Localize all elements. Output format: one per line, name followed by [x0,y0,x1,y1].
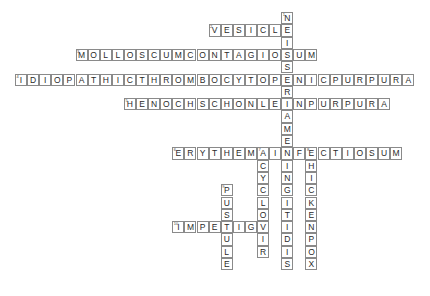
crossword-cell[interactable]: R [366,98,378,110]
crossword-cell[interactable]: Y [233,74,245,86]
crossword-cell[interactable]: M [245,147,257,159]
crossword-cell[interactable]: C [305,184,317,196]
crossword-cell[interactable]: T [281,209,293,221]
crossword-cell[interactable]: A [378,98,390,110]
crossword-cell[interactable]: N [293,98,305,110]
crossword-cell[interactable]: S [281,61,293,73]
crossword-cell[interactable]: P [197,221,209,233]
crossword-cell[interactable]: B [197,74,209,86]
crossword-cell[interactable]: C [209,98,221,110]
crossword-cell[interactable]: D [281,233,293,245]
crossword-cell[interactable]: P [366,74,378,86]
crossword-cell[interactable]: I [257,49,269,61]
crossword-cell[interactable]: M [184,74,196,86]
crossword-cell[interactable]: C [124,74,136,86]
crossword-cell[interactable]: N [281,172,293,184]
crossword-cell[interactable]: 2V [209,24,221,36]
crossword-cell[interactable]: I [245,24,257,36]
crossword-cell[interactable]: U [318,98,330,110]
crossword-cell[interactable]: C [172,98,184,110]
crossword-cell[interactable]: R [330,98,342,110]
crossword-cell[interactable]: Y [257,172,269,184]
crossword-cell[interactable]: O [209,74,221,86]
crossword-cell[interactable]: E [305,209,317,221]
crossword-cell[interactable]: H [148,74,160,86]
crossword-cell[interactable]: C [318,147,330,159]
crossword-cell[interactable]: T [221,49,233,61]
crossword-cell[interactable]: L [112,49,124,61]
crossword-cell[interactable]: E [233,147,245,159]
crossword-cell[interactable]: T [209,147,221,159]
crossword-cell[interactable]: I [281,160,293,172]
crossword-cell[interactable]: Y [197,147,209,159]
crossword-cell[interactable]: A [281,110,293,122]
crossword-cell[interactable]: P [305,233,317,245]
crossword-cell[interactable]: R [390,74,402,86]
crossword-cell[interactable]: O [257,209,269,221]
crossword-cell[interactable]: 7A [257,147,269,159]
crossword-cell[interactable]: L [257,197,269,209]
crossword-cell[interactable]: I [233,221,245,233]
crossword-cell[interactable]: T [136,74,148,86]
crossword-cell[interactable]: C [257,160,269,172]
crossword-cell[interactable]: I [342,147,354,159]
crossword-cell[interactable]: D [27,74,39,86]
crossword-cell[interactable]: H [221,147,233,159]
crossword-cell[interactable]: C [257,184,269,196]
crossword-cell[interactable]: P [269,74,281,86]
crossword-cell[interactable]: H [305,160,317,172]
crossword-cell[interactable]: I [112,74,124,86]
crossword-cell[interactable]: R [281,86,293,98]
crossword-cell[interactable]: L [221,246,233,258]
crossword-cell[interactable]: I [281,197,293,209]
crossword-cell[interactable]: E [136,98,148,110]
crossword-cell[interactable]: U [221,197,233,209]
crossword-cell[interactable]: G [245,49,257,61]
crossword-cell[interactable]: U [160,49,172,61]
crossword-cell[interactable]: C [318,74,330,86]
crossword-cell[interactable]: E [221,24,233,36]
crossword-cell[interactable]: E [281,135,293,147]
crossword-cell[interactable]: C [221,74,233,86]
crossword-cell[interactable]: U [354,98,366,110]
crossword-cell[interactable]: E [221,258,233,270]
crossword-cell[interactable]: R [257,246,269,258]
crossword-cell[interactable]: 4I [15,74,27,86]
crossword-cell[interactable]: I [281,98,293,110]
crossword-cell[interactable]: S [221,209,233,221]
crossword-cell[interactable]: I [281,37,293,49]
crossword-cell[interactable]: L [269,24,281,36]
crossword-cell[interactable]: R [354,74,366,86]
crossword-cell[interactable]: U [221,233,233,245]
crossword-cell[interactable]: S [197,98,209,110]
crossword-cell[interactable]: I [257,233,269,245]
crossword-cell[interactable]: O [305,246,317,258]
crossword-cell[interactable]: C [148,49,160,61]
crossword-cell[interactable]: P [305,98,317,110]
crossword-cell[interactable]: H [221,98,233,110]
crossword-cell[interactable]: O [197,49,209,61]
crossword-cell[interactable]: K [305,197,317,209]
crossword-cell[interactable]: 6E [172,147,184,159]
crossword-cell[interactable]: P [342,98,354,110]
crossword-cell[interactable]: A [402,74,414,86]
crossword-cell[interactable]: R [184,147,196,159]
crossword-cell[interactable]: E [281,74,293,86]
crossword-cell[interactable]: E [209,221,221,233]
crossword-cell[interactable]: O [160,98,172,110]
crossword-cell[interactable]: O [88,49,100,61]
crossword-cell[interactable]: I [305,172,317,184]
crossword-cell[interactable]: N [209,49,221,61]
crossword-cell[interactable]: N [245,98,257,110]
crossword-cell[interactable]: N [281,147,293,159]
crossword-cell[interactable]: U [378,147,390,159]
crossword-cell[interactable]: R [160,74,172,86]
crossword-cell[interactable]: M [390,147,402,159]
crossword-cell[interactable]: 3M [76,49,88,61]
crossword-cell[interactable]: P [63,74,75,86]
crossword-cell[interactable]: C [184,49,196,61]
crossword-cell[interactable]: M [305,49,317,61]
crossword-cell[interactable]: S [366,147,378,159]
crossword-cell[interactable]: 5H [124,98,136,110]
crossword-cell[interactable]: O [354,147,366,159]
